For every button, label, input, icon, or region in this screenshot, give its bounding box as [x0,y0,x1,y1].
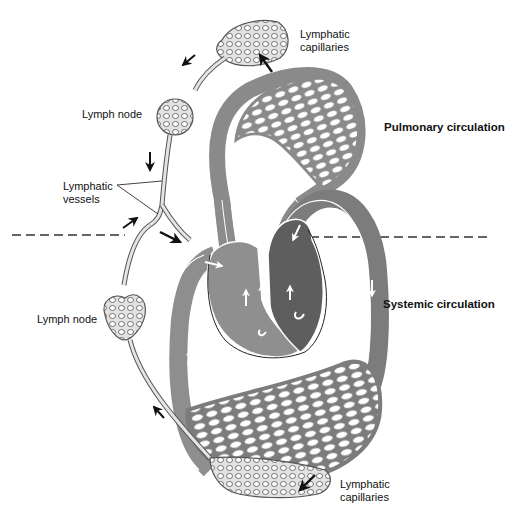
label-line: Lymphatic [300,28,350,41]
label-systemic-circulation: Systemic circulation [383,298,495,311]
label-lymphatic-vessels: Lymphatic vessels [63,180,113,206]
heart [188,219,372,365]
arrow-icon [160,232,180,242]
label-line: capillaries [300,41,350,54]
arrow-icon [123,218,137,228]
arrow-icon [154,407,164,418]
dashed-divider-line [12,235,490,237]
label-lymphatic-capillaries-bottom: Lymphatic capillaries [340,478,390,504]
arrow-icon [183,55,195,65]
label-pulmonary-circulation: Pulmonary circulation [384,121,505,134]
label-leader-lines [117,181,162,214]
label-lymphatic-capillaries-top: Lymphatic capillaries [300,28,350,54]
label-line: capillaries [340,491,390,504]
label-line: vessels [63,193,113,206]
label-line: Lymphatic [340,478,390,491]
label-lymph-node-bottom: Lymph node [37,313,97,326]
label-line: Lymphatic [63,180,113,193]
label-lymph-node-top: Lymph node [82,108,142,121]
